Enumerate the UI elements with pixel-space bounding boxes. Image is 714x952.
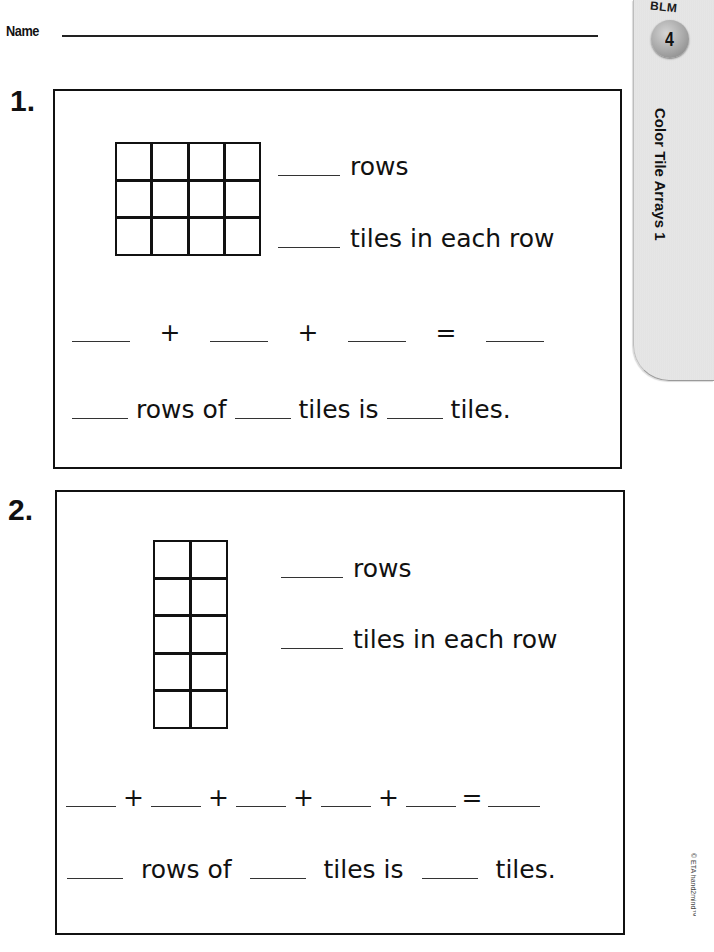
sentence-tiles-is: tiles is [299,395,379,424]
sentence-tiles-blank[interactable] [250,878,306,879]
sentence-tiles-end: tiles. [451,395,511,424]
sentence-rows-of: rows of [136,395,227,424]
tile [192,542,226,577]
blm-badge: 4 [651,20,689,58]
plus-sign: + [268,318,348,347]
problem-2-tiles-prompt: tiles in each row [281,625,558,654]
problem-2-sentence: rows of tiles is tiles. [67,855,556,884]
tile [226,144,259,179]
addend-blank-1[interactable] [72,341,130,342]
tile [192,580,226,615]
sum-blank[interactable] [486,341,544,342]
problem-2-tile-array [153,540,228,729]
sentence-tiles-is: tiles is [324,855,404,884]
tile [117,182,150,217]
sum-blank[interactable] [488,806,540,807]
problem-1-rows-prompt: rows [278,152,409,181]
addend-blank-3[interactable] [236,806,286,807]
tile [226,182,259,217]
rows-answer-blank[interactable] [278,175,340,176]
equals-sign: = [456,783,488,812]
tile [226,219,259,254]
addend-blank-4[interactable] [321,806,371,807]
tile [155,542,189,577]
plus-sign: + [201,783,236,812]
addend-blank-3[interactable] [348,341,406,342]
tile [153,182,186,217]
tile [155,580,189,615]
tile [153,144,186,179]
rows-label: rows [350,152,409,181]
tile [155,655,189,690]
problem-1-equation: + + = [72,318,544,347]
tile [117,219,150,254]
sentence-tiles-end: tiles. [496,855,556,884]
plus-sign: + [371,783,406,812]
tile [155,692,189,727]
problem-1-tiles-prompt: tiles in each row [278,224,555,253]
tile [192,655,226,690]
addend-blank-2[interactable] [151,806,201,807]
sentence-total-blank[interactable] [422,878,478,879]
name-label: Name [6,22,39,39]
tile [153,219,186,254]
sentence-rows-of: rows of [141,855,232,884]
copyright-notice: © ETA hand2mind™ [690,853,697,916]
tile [192,617,226,652]
name-input-line[interactable] [62,35,598,37]
addend-blank-5[interactable] [406,806,456,807]
tiles-per-row-label: tiles in each row [350,224,555,253]
plus-sign: + [116,783,151,812]
tiles-per-row-label: tiles in each row [353,625,558,654]
problem-2-rows-prompt: rows [281,554,412,583]
addend-blank-1[interactable] [66,806,116,807]
problem-1-number: 1. [10,84,35,118]
problem-2-equation: + + + + = [66,783,540,812]
problem-1-sentence: rows of tiles is tiles. [72,395,511,424]
problem-1-tile-array [115,142,261,256]
tiles-per-row-answer-blank[interactable] [281,648,343,649]
tile [192,692,226,727]
tile [190,219,223,254]
equals-sign: = [406,318,486,347]
sentence-rows-blank[interactable] [67,878,123,879]
rows-label: rows [353,554,412,583]
addend-blank-2[interactable] [210,341,268,342]
blm-label: BLM [649,0,678,15]
tile [117,144,150,179]
rows-answer-blank[interactable] [281,577,343,578]
plus-sign: + [286,783,321,812]
tile [190,144,223,179]
blm-number: 4 [666,28,675,51]
sentence-total-blank[interactable] [387,418,443,419]
problem-2-number: 2. [8,493,33,527]
tile [155,617,189,652]
sentence-rows-blank[interactable] [72,418,128,419]
tile [190,182,223,217]
worksheet-title: Color Tile Arrays 1 [652,108,669,241]
sentence-tiles-blank[interactable] [235,418,291,419]
plus-sign: + [130,318,210,347]
tiles-per-row-answer-blank[interactable] [278,247,340,248]
